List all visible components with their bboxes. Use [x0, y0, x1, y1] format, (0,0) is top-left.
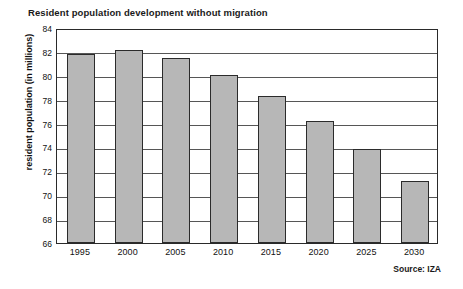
y-tick-label: 80: [43, 72, 52, 82]
bar: [67, 54, 95, 243]
x-tick-label: 2020: [309, 247, 329, 257]
plot-area: [56, 29, 438, 244]
y-tick-label: 82: [43, 48, 52, 58]
x-tick-label: 1995: [70, 247, 90, 257]
bar: [306, 121, 334, 243]
x-tick-label: 2000: [118, 247, 138, 257]
bar: [162, 58, 190, 243]
x-tick-label: 2025: [356, 247, 376, 257]
bar: [115, 50, 143, 244]
y-axis-ticks: 66687072747678808284: [28, 29, 52, 244]
x-tick-label: 2005: [165, 247, 185, 257]
bar: [210, 75, 238, 243]
x-axis-ticks: 19952000200520102015202020252030: [56, 247, 438, 261]
y-tick-label: 72: [43, 167, 52, 177]
source-annotation: Source: IZA: [393, 264, 441, 274]
x-tick-label: 2030: [404, 247, 424, 257]
y-tick-label: 70: [43, 191, 52, 201]
y-tick-label: 66: [43, 239, 52, 249]
bar-series: [57, 30, 437, 243]
x-tick-label: 2015: [261, 247, 281, 257]
y-tick-label: 68: [43, 215, 52, 225]
bar: [401, 181, 429, 243]
chart-title: Resident population development without …: [28, 7, 268, 18]
chart-page: Resident population development without …: [0, 0, 463, 289]
y-tick-label: 78: [43, 96, 52, 106]
y-tick-label: 76: [43, 120, 52, 130]
x-tick-label: 2010: [213, 247, 233, 257]
bar: [258, 96, 286, 243]
y-tick-label: 84: [43, 24, 52, 34]
bar: [353, 149, 381, 243]
y-tick-label: 74: [43, 143, 52, 153]
